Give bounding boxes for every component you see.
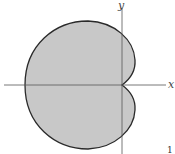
y-axis-label: y bbox=[117, 0, 125, 12]
x-axis-label: x bbox=[168, 78, 175, 91]
corner-mark: 1 bbox=[167, 145, 173, 154]
cardioid-diagram: y x 1 bbox=[0, 0, 175, 154]
